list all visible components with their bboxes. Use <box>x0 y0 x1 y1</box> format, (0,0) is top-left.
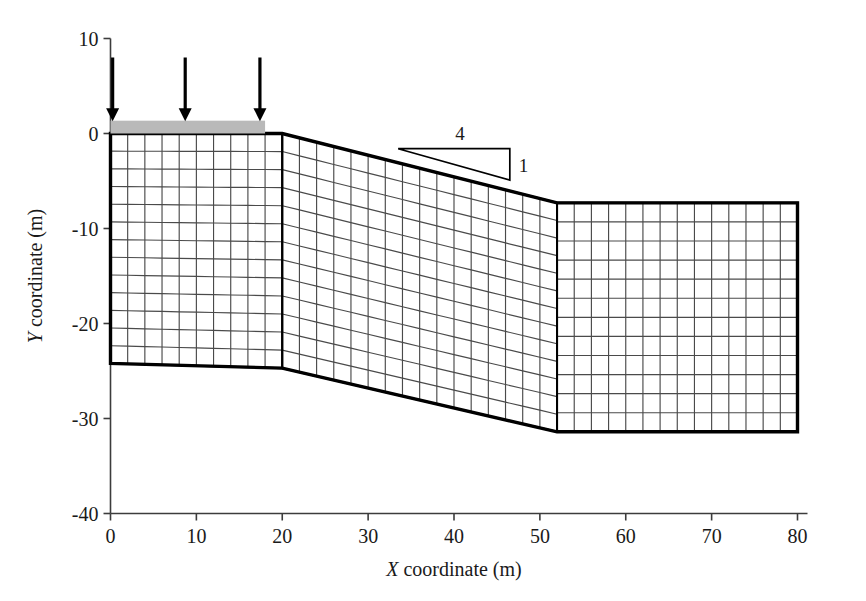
y-axis-tick-label: 10 <box>79 28 99 50</box>
x-axis-tick-label: 10 <box>186 525 206 547</box>
x-axis-tick-label: 60 <box>616 525 636 547</box>
x-axis-tick-label: 0 <box>106 525 116 547</box>
y-axis-title-text: coordinate (m) <box>24 209 47 332</box>
figure-background <box>0 0 866 601</box>
x-axis-title: X coordinate (m) <box>385 558 522 581</box>
x-axis-tick-label: 70 <box>702 525 722 547</box>
mesh-line-horizontal <box>111 169 283 170</box>
y-axis-title: Y coordinate (m) <box>24 209 47 343</box>
slope-ratio-horizontal-label: 4 <box>455 123 465 144</box>
y-axis-tick-label: 0 <box>89 123 99 145</box>
x-axis-title-symbol: X <box>385 558 399 580</box>
y-axis-tick-label: -10 <box>72 218 99 240</box>
slope-mesh-figure: 100-10-20-30-4001020304050607080 41 X co… <box>0 0 866 601</box>
y-axis-tick-label: -20 <box>72 313 99 335</box>
x-axis-tick-label: 40 <box>444 525 464 547</box>
y-axis-tick-label: -30 <box>72 408 99 430</box>
x-axis-title-text: coordinate (m) <box>398 558 521 581</box>
x-axis-tick-label: 30 <box>358 525 378 547</box>
x-axis-tick-label: 20 <box>272 525 292 547</box>
y-axis-tick-label: -40 <box>72 503 99 525</box>
x-axis-tick-label: 50 <box>530 525 550 547</box>
slope-ratio-vertical-label: 1 <box>519 155 529 176</box>
load-strip <box>111 121 266 134</box>
figure-root: 100-10-20-30-4001020304050607080 41 X co… <box>0 0 866 601</box>
x-axis-tick-label: 80 <box>788 525 808 547</box>
